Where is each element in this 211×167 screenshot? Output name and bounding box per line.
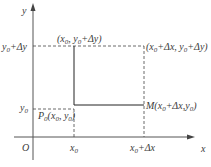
y0-tick-label: y0 xyxy=(19,102,28,115)
x0-plus-dx-tick-label: x0+Δx xyxy=(129,142,156,155)
increment-diagram: y x O x0 x0+Δx y0 y0+Δy (x0, y0+Δy) (x0+… xyxy=(0,0,211,167)
point-label-m: M(x0+Δx,y0) xyxy=(145,100,197,113)
y-axis-label: y xyxy=(21,5,27,16)
point-label-p0: P0(x0, y0) xyxy=(37,110,76,123)
x0-tick-label: x0 xyxy=(69,142,78,155)
x-axis-label: x xyxy=(200,143,206,154)
x-axis-arrow-icon xyxy=(187,135,195,140)
y0-plus-dy-tick-label: y0+Δy xyxy=(1,41,28,54)
point-label-top-left: (x0, y0+Δy) xyxy=(57,33,102,46)
y-axis-arrow-icon xyxy=(31,3,36,11)
origin-label: O xyxy=(22,142,29,153)
point-label-top-right: (x0+Δx, y0+Δy) xyxy=(146,41,208,54)
